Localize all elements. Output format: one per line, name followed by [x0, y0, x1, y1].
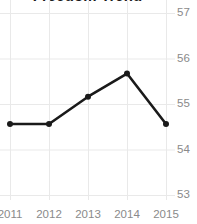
x-tick-label-2011: 2011 [0, 208, 30, 220]
plot-area [0, 0, 175, 200]
y-tick-label-57: 57 [177, 7, 197, 18]
x-tick-label-2015: 2015 [146, 208, 186, 220]
x-tick-label-2014: 2014 [107, 208, 147, 220]
x-tick-label-2012: 2012 [29, 208, 69, 220]
data-point-2012 [46, 121, 52, 127]
y-tick-label-54: 54 [177, 144, 197, 155]
y-tick-label-53: 53 [177, 189, 197, 200]
data-point-2011 [7, 121, 13, 127]
data-point-2015 [163, 121, 169, 127]
vertical-gridlines [11, 0, 167, 200]
data-point-2014 [124, 71, 130, 77]
y-tick-label-55: 55 [177, 98, 197, 109]
chart-container: Freedom Trend 5354555657 201120122013201… [0, 0, 197, 224]
line-chart-svg [0, 0, 175, 200]
x-tick-label-2013: 2013 [68, 208, 108, 220]
horizontal-gridlines [0, 14, 175, 196]
y-tick-label-56: 56 [177, 53, 197, 64]
data-point-2013 [85, 94, 91, 100]
